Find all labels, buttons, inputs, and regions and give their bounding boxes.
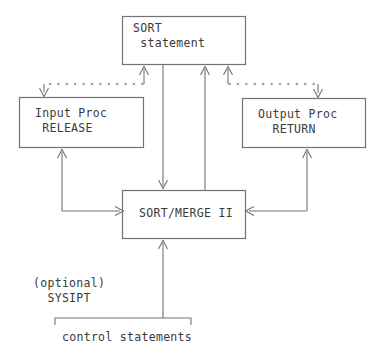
connector-output-proc-to-sortmerge (246, 150, 312, 216)
diagram-canvas: SORT statement Input Proc RELEASE Output… (0, 0, 389, 361)
connector-sort-to-output-proc (224, 67, 323, 98)
control-statements-label: control statements (62, 330, 192, 345)
optional-sysipt-label: (optional) SYSIPT (33, 276, 105, 306)
control-statements-bracket (55, 318, 191, 325)
output-proc-label: Output Proc RETURN (258, 107, 337, 137)
connector-sortmerge-to-sort (201, 67, 210, 191)
connector-control-to-sortmerge (159, 241, 168, 319)
diagram-graphics (0, 0, 389, 361)
input-proc-label: Input Proc RELEASE (35, 106, 107, 136)
connector-sort-to-input-proc (40, 67, 149, 97)
connector-input-proc-to-sortmerge (58, 150, 124, 216)
connector-sort-to-sortmerge (159, 64, 168, 189)
sort-statement-label: SORT statement (133, 21, 205, 51)
sort-merge-label: SORT/MERGE II (139, 206, 233, 221)
